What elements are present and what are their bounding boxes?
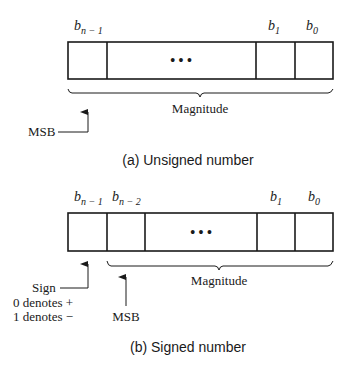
number-representation-diagram: bn − 1 b1 b0 • • • Magnitude MSB (a) Uns…	[0, 0, 351, 365]
sign-label: Sign	[32, 280, 56, 295]
caption-unsigned: (a) Unsigned number	[122, 152, 254, 168]
sign-arrow	[60, 264, 88, 288]
ellipsis: • • •	[190, 225, 212, 240]
magnitude-brace	[107, 261, 333, 270]
sign-note-negative: 1 denotes −	[13, 309, 73, 324]
msb-label: MSB	[28, 124, 56, 139]
magnitude-label: Magnitude	[191, 273, 248, 288]
bit-label-n-1: bn − 1	[74, 189, 103, 207]
bit-label-1: b1	[268, 18, 280, 36]
bit-label-n-1: bn − 1	[74, 18, 103, 36]
bit-label-0: b0	[308, 189, 320, 207]
magnitude-label: Magnitude	[172, 101, 229, 116]
signed-figure: bn − 1 bn − 2 b1 b0 • • • Magnitude Sign…	[13, 189, 333, 355]
bit-label-1: b1	[270, 189, 282, 207]
bit-register	[68, 42, 333, 79]
bit-label-n-2: bn − 2	[112, 189, 141, 207]
ellipsis: • • •	[170, 53, 192, 68]
bit-label-0: b0	[306, 18, 318, 36]
magnitude-brace	[68, 89, 333, 97]
msb-arrow	[58, 112, 88, 132]
caption-signed: (b) Signed number	[130, 339, 246, 355]
unsigned-figure: bn − 1 b1 b0 • • • Magnitude MSB (a) Uns…	[28, 18, 333, 168]
sign-note-positive: 0 denotes +	[13, 295, 73, 310]
msb-label: MSB	[112, 309, 140, 324]
